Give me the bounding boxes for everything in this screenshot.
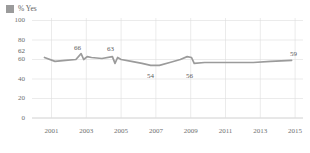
x-tick-2007: 2007 xyxy=(142,127,170,135)
line-chart: % Yes 100 80 60 40 20 0 200 xyxy=(0,0,310,153)
x-tick-2015: 2015 xyxy=(281,127,309,135)
x-tick-2009: 2009 xyxy=(177,127,205,135)
data-label-66: 66 xyxy=(74,44,81,52)
y-tick-0: 0 xyxy=(3,114,25,122)
y-tick-20: 20 xyxy=(3,94,25,102)
x-tick-2013: 2013 xyxy=(246,127,274,135)
x-tick-2003: 2003 xyxy=(72,127,100,135)
data-label-54: 54 xyxy=(147,72,154,80)
data-label-62: 62 xyxy=(18,47,25,55)
y-tick-100: 100 xyxy=(3,16,25,24)
vertical-gridlines xyxy=(52,18,296,118)
data-label-63: 63 xyxy=(107,45,114,53)
data-label-56: 56 xyxy=(186,72,193,80)
x-tick-2011: 2011 xyxy=(212,127,240,135)
y-tick-60: 60 xyxy=(3,55,25,63)
data-label-59: 59 xyxy=(290,50,297,58)
y-tick-40: 40 xyxy=(3,75,25,83)
x-tick-2001: 2001 xyxy=(38,127,66,135)
y-tick-80: 80 xyxy=(3,36,25,44)
x-tick-2005: 2005 xyxy=(107,127,135,135)
